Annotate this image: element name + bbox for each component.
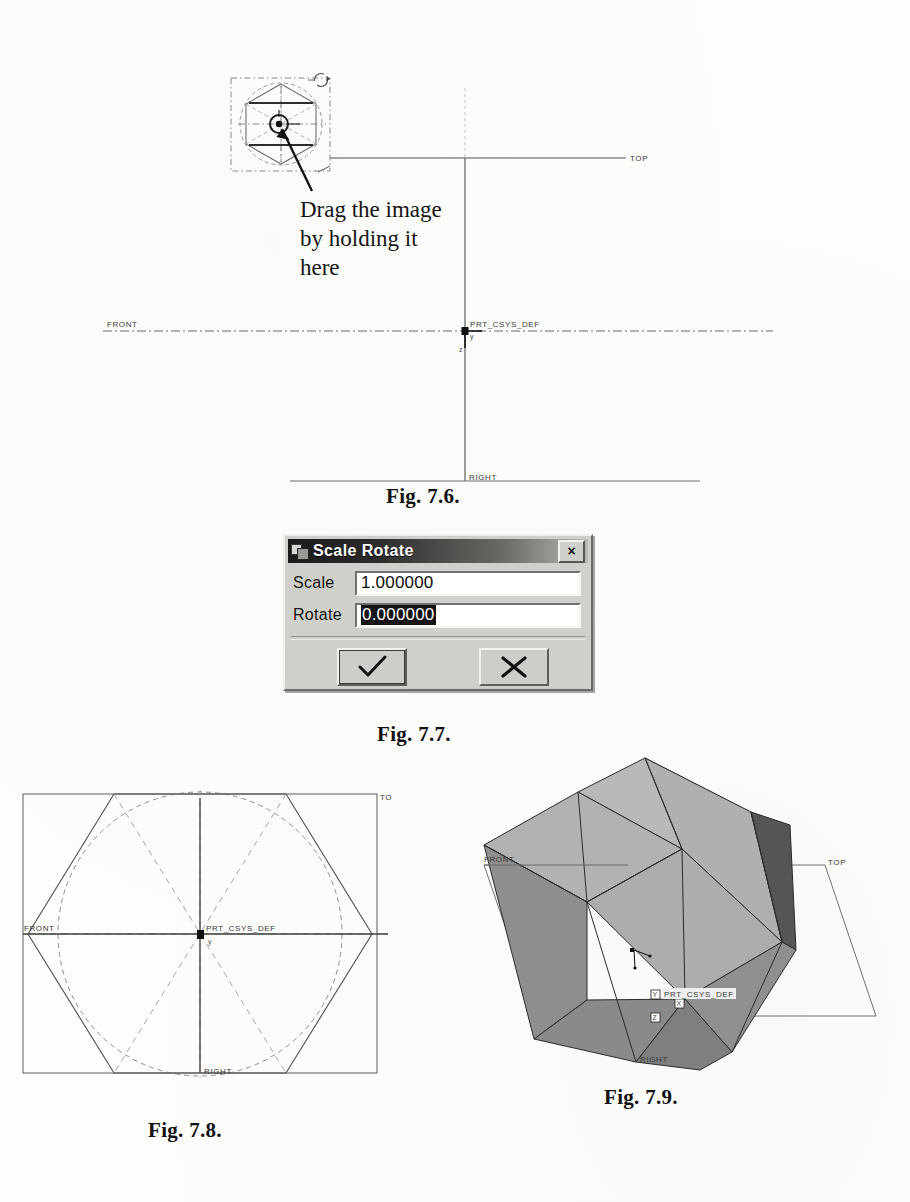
caption-fig-7-9: Fig. 7.9. [604,1085,678,1110]
figure-7-9: TOP [470,752,890,1092]
datum-label-right: RIGHT [640,1055,668,1064]
dialog-title: Scale Rotate [313,542,558,560]
figure-7-7: Scale Rotate × Scale 1.000000 Rotate 0.0… [283,534,591,689]
csys-axis-y: Y [653,991,658,998]
caption-fig-7-8: Fig. 7.8. [148,1118,222,1143]
dialog-separator [291,636,585,640]
datum-label-front: FRONT [484,855,515,864]
csys-label: PRT_CSYS_DEF [470,320,540,329]
annotation-line-2: by holding it [300,225,520,254]
rotate-handle-icon[interactable] [308,74,329,87]
rotate-input[interactable]: 0.000000 [355,603,581,628]
annotation-leader-arrow [277,129,313,191]
app-icon [291,544,308,559]
csys-label: PRT_CSYS_DEF [206,924,276,933]
scale-input[interactable]: 1.000000 [355,571,581,596]
rotate-label: Rotate [293,606,355,624]
scale-row: Scale 1.000000 [293,569,581,597]
caption-fig-7-6: Fig. 7.6. [386,484,460,509]
datum-label-top: TOP [630,154,648,163]
datum-label-front: FRONT [24,924,55,933]
caption-fig-7-7: Fig. 7.7. [377,722,451,747]
csys-axis-y: y [208,938,212,946]
csys-axis-y: y [470,333,474,341]
fig-7-9-canvas: TOP [470,752,890,1092]
close-icon[interactable]: × [558,540,585,563]
cancel-button[interactable] [479,648,549,686]
csys-axis-z: z [459,346,463,353]
cross-icon [499,655,529,679]
annotation-line-1: Drag the image [300,196,520,225]
csys-label: PRT_CSYS_DEF [664,990,734,999]
annotation-line-3: here [300,254,520,283]
rotate-row: Rotate 0.000000 [293,601,581,629]
csys-marker[interactable] [197,930,204,939]
csys-axis-z: Z [653,1014,658,1021]
dialog-titlebar[interactable]: Scale Rotate × [288,539,588,563]
accept-button[interactable] [337,648,407,686]
rotate-value: 0.000000 [361,605,436,625]
figure-7-8: TO FRONT RIGHT PRT_CSYS_DEF [18,748,418,1078]
dialog-button-row [285,644,591,686]
scanned-page: TOP FRONT RIGHT PRT_CSYS_DEF y z Drag th… [0,0,910,1202]
scale-rotate-dialog[interactable]: Scale Rotate × Scale 1.000000 Rotate 0.0… [283,534,593,691]
datum-label-right: RIGHT [204,1067,232,1076]
datum-label-front: FRONT [107,320,138,329]
datum-label-top: TOP [828,858,846,867]
scale-value: 1.000000 [361,573,434,593]
scale-label: Scale [293,574,355,592]
csys-axis-x: X [677,1000,682,1007]
datum-label-top: TO [380,793,392,802]
check-icon [355,655,389,679]
figure-7-6: TOP FRONT RIGHT PRT_CSYS_DEF y z Drag th… [0,0,910,500]
annotation-text: Drag the image by holding it here [300,196,520,283]
fig-7-8-canvas: TO FRONT RIGHT PRT_CSYS_DEF [18,748,418,1078]
